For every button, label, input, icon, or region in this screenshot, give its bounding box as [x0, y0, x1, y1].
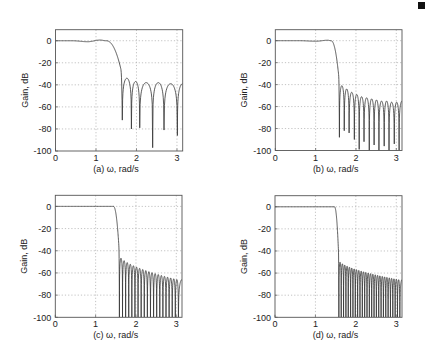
y-tick-label: -40 [258, 246, 271, 256]
x-tick-label: 0 [273, 153, 278, 163]
y-tick-label: 0 [266, 36, 271, 46]
x-tick-label: 3 [394, 153, 399, 163]
y-tick-label: -40 [258, 80, 271, 90]
subplot-d: 01230-20-40-60-80-100Gain, dB(d) ω, rad/… [239, 196, 402, 341]
gain-curve [275, 40, 402, 150]
axes-box [56, 30, 183, 151]
x-tick-label: 2 [134, 153, 139, 163]
y-tick-label: -60 [38, 102, 51, 112]
y-tick-label: -20 [38, 58, 51, 68]
y-axis-label: Gain, dB [239, 73, 249, 108]
gain-curve [275, 207, 402, 318]
y-tick-label: -20 [258, 58, 271, 68]
x-tick-label: 3 [174, 319, 179, 329]
figure: 01230-20-40-60-80-100Gain, dB(a) ω, rad/… [0, 0, 426, 358]
subplot-c: 01230-20-40-60-80-100Gain, dB(c) ω, rad/… [19, 195, 182, 340]
y-tick-label: -60 [258, 102, 271, 112]
subplot-a: 01230-20-40-60-80-100Gain, dB(a) ω, rad/… [20, 30, 183, 174]
axes-box [275, 30, 402, 151]
gain-curve [55, 206, 182, 317]
y-tick-label: -80 [258, 124, 271, 134]
y-tick-label: -80 [258, 290, 271, 300]
y-tick-label: 0 [266, 202, 271, 212]
x-tick-label: 0 [53, 153, 58, 163]
x-tick-label: 1 [93, 153, 98, 163]
y-axis-label: Gain, dB [239, 239, 249, 274]
y-tick-label: -20 [258, 224, 271, 234]
x-axis-label: (b) ω, rad/s [313, 164, 359, 174]
y-tick-label: -80 [38, 124, 51, 134]
subplot-b: 01230-20-40-60-80-100Gain, dB(b) ω, rad/… [239, 30, 402, 174]
x-tick-label: 0 [272, 319, 277, 329]
x-axis-label: (a) ω, rad/s [93, 164, 139, 174]
y-tick-label: -60 [38, 268, 51, 278]
x-tick-label: 3 [174, 153, 179, 163]
y-tick-label: -100 [33, 146, 51, 156]
x-tick-label: 3 [394, 319, 399, 329]
x-axis-label: (d) ω, rad/s [313, 330, 359, 340]
y-axis-label: Gain, dB [20, 73, 30, 108]
y-tick-label: 0 [46, 202, 51, 212]
y-axis-label: Gain, dB [19, 239, 29, 274]
y-tick-label: -100 [253, 313, 271, 323]
y-tick-label: -100 [33, 313, 51, 323]
x-axis-label: (c) ω, rad/s [93, 330, 139, 340]
x-tick-label: 0 [53, 319, 58, 329]
x-tick-label: 2 [353, 153, 358, 163]
x-tick-label: 1 [313, 153, 318, 163]
y-tick-label: -40 [38, 246, 51, 256]
x-tick-label: 2 [353, 319, 358, 329]
x-tick-label: 1 [313, 319, 318, 329]
x-tick-label: 1 [93, 319, 98, 329]
gain-curve [56, 40, 183, 148]
x-tick-label: 2 [133, 319, 138, 329]
y-tick-label: -100 [253, 146, 271, 156]
y-tick-label: -60 [258, 268, 271, 278]
y-tick-label: 0 [46, 36, 51, 46]
y-tick-label: -80 [38, 290, 51, 300]
y-tick-label: -40 [38, 80, 51, 90]
y-tick-label: -20 [38, 224, 51, 234]
